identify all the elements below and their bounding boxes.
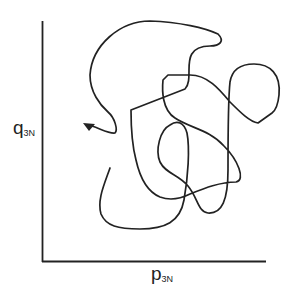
phase-space-diagram [0, 0, 295, 292]
x-axis-label: p3N [151, 264, 173, 283]
y-axis-label: q3N [13, 118, 35, 137]
trajectory-curve [90, 21, 279, 229]
